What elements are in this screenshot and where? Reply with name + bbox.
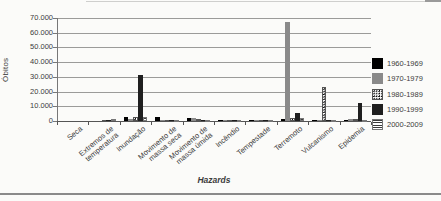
bar bbox=[237, 120, 242, 122]
legend-item: 1960-1969 bbox=[372, 58, 440, 69]
x-tick-mark bbox=[183, 122, 184, 125]
x-tick-mark bbox=[340, 122, 341, 125]
bar bbox=[143, 117, 148, 121]
y-tick-mark bbox=[53, 121, 57, 122]
x-tick-mark bbox=[308, 122, 309, 125]
legend-item: 1970-1979 bbox=[372, 73, 440, 84]
legend-swatch-icon bbox=[372, 73, 383, 84]
legend-label: 1970-1979 bbox=[387, 74, 423, 83]
legend-swatch-icon bbox=[372, 58, 383, 69]
gridline bbox=[57, 18, 371, 19]
y-tick-label: 40.000 bbox=[15, 58, 53, 66]
y-tick-label: 60.000 bbox=[15, 29, 53, 37]
y-tick-label: 0 bbox=[15, 117, 53, 125]
y-tick-mark bbox=[53, 18, 57, 19]
y-tick-mark bbox=[53, 106, 57, 107]
y-axis-line bbox=[57, 18, 58, 121]
x-tick-mark bbox=[151, 122, 152, 125]
bar bbox=[285, 22, 290, 121]
y-tick-label: 20.000 bbox=[15, 88, 53, 96]
legend-label: 1980-1989 bbox=[387, 90, 423, 99]
x-tick-mark bbox=[120, 122, 121, 125]
bar bbox=[362, 120, 367, 122]
top-right-mark bbox=[425, 0, 441, 2]
gridline bbox=[57, 62, 371, 63]
x-tick-mark bbox=[214, 122, 215, 125]
bar bbox=[174, 120, 179, 122]
x-tick-mark bbox=[277, 122, 278, 125]
y-tick-mark bbox=[53, 77, 57, 78]
bar bbox=[300, 118, 305, 121]
top-divider bbox=[86, 1, 441, 2]
legend: 1960-19691970-19791980-19891990-19992000… bbox=[372, 58, 440, 130]
bar bbox=[331, 120, 336, 122]
y-tick-mark bbox=[53, 62, 57, 63]
bar bbox=[358, 103, 363, 121]
y-tick-label: 10.000 bbox=[15, 102, 53, 110]
legend-item: 1990-1999 bbox=[372, 104, 440, 115]
y-tick-label: 50.000 bbox=[15, 43, 53, 51]
gridline bbox=[57, 77, 371, 78]
legend-label: 1990-1999 bbox=[387, 105, 423, 114]
legend-item: 2000-2009 bbox=[372, 119, 440, 130]
y-tick-label: 70.000 bbox=[15, 14, 53, 22]
y-tick-mark bbox=[53, 92, 57, 93]
legend-swatch-icon bbox=[372, 119, 383, 130]
bar bbox=[205, 120, 210, 122]
y-tick-mark bbox=[53, 33, 57, 34]
y-tick-label: 30.000 bbox=[15, 73, 53, 81]
legend-swatch-icon bbox=[372, 104, 383, 115]
bar bbox=[322, 87, 327, 121]
x-tick-mark bbox=[245, 122, 246, 125]
y-axis-title: Óbitos bbox=[1, 42, 12, 98]
legend-item: 1980-1989 bbox=[372, 89, 440, 100]
x-tick-mark bbox=[88, 122, 89, 125]
y-tick-mark bbox=[53, 47, 57, 48]
bar bbox=[268, 120, 273, 122]
chart-screenshot: Óbitos Hazards 010.00020.00030.00040.000… bbox=[0, 0, 441, 201]
bar bbox=[138, 75, 143, 121]
legend-label: 2000-2009 bbox=[387, 120, 423, 129]
legend-swatch-icon bbox=[372, 89, 383, 100]
gridline bbox=[57, 47, 371, 48]
gridline bbox=[57, 33, 371, 34]
legend-label: 1960-1969 bbox=[387, 59, 423, 68]
bar bbox=[111, 119, 116, 121]
bottom-divider bbox=[0, 193, 441, 195]
x-tick-mark bbox=[57, 122, 58, 125]
